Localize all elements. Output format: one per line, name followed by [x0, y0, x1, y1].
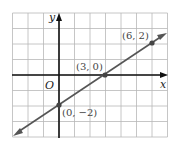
point-3-0: [102, 72, 107, 77]
y-axis-arrow-icon: [56, 13, 62, 21]
point-0-neg2: [56, 102, 61, 107]
y-axis-label: y: [48, 11, 56, 24]
point-6-2: [149, 40, 154, 45]
point-label-3-0: (3, 0): [76, 61, 103, 72]
point-label-0-neg2: (0, −2): [62, 107, 97, 118]
coordinate-plane: x y O (0, −2) (3, 0) (6, 2): [0, 0, 176, 150]
origin-label: O: [45, 79, 54, 92]
x-axis-label: x: [160, 78, 167, 91]
point-label-6-2: (6, 2): [122, 30, 149, 41]
